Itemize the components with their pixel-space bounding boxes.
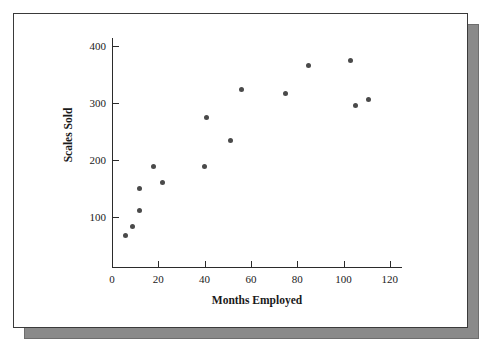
y-axis-tick bbox=[113, 103, 119, 104]
data-point bbox=[239, 87, 244, 92]
y-axis-tick bbox=[113, 46, 119, 47]
data-point bbox=[137, 186, 142, 191]
scatter-plot-figure: 100200300400 020406080100120 Months Empl… bbox=[0, 0, 486, 346]
data-point bbox=[202, 164, 207, 169]
x-axis-tick-label: 40 bbox=[199, 273, 210, 285]
y-axis-line bbox=[112, 38, 113, 267]
data-point bbox=[204, 115, 209, 120]
data-point bbox=[348, 58, 353, 63]
y-axis-tick bbox=[113, 160, 119, 161]
data-point bbox=[137, 208, 142, 213]
y-axis-tick-label: 400 bbox=[68, 40, 106, 52]
data-point bbox=[130, 224, 135, 229]
x-axis-tick-label: 100 bbox=[335, 273, 352, 285]
data-point bbox=[160, 180, 165, 185]
x-axis-tick-label: 80 bbox=[292, 273, 303, 285]
plot-canvas: 100200300400 020406080100120 Months Empl… bbox=[0, 0, 486, 346]
y-axis-tick-label: 100 bbox=[68, 211, 106, 223]
y-axis-tick bbox=[113, 217, 119, 218]
data-point bbox=[151, 164, 156, 169]
x-axis-tick bbox=[112, 261, 113, 267]
x-axis-tick-label: 20 bbox=[153, 273, 164, 285]
x-axis-tick bbox=[344, 261, 345, 267]
x-axis-tick bbox=[205, 261, 206, 267]
x-axis-tick bbox=[251, 261, 252, 267]
x-axis-tick bbox=[297, 261, 298, 267]
data-point bbox=[228, 138, 233, 143]
x-axis-tick-label: 0 bbox=[109, 273, 115, 285]
x-axis-tick bbox=[158, 261, 159, 267]
x-axis-tick bbox=[390, 261, 391, 267]
data-point bbox=[123, 233, 128, 238]
x-axis-tick-label: 60 bbox=[245, 273, 256, 285]
x-axis-line bbox=[112, 267, 402, 268]
data-point bbox=[353, 103, 358, 108]
data-point bbox=[366, 97, 371, 102]
x-axis-tick-label: 120 bbox=[382, 273, 399, 285]
data-point bbox=[283, 91, 288, 96]
y-axis-title: Scales Sold bbox=[62, 107, 74, 162]
x-axis-title: Months Employed bbox=[212, 294, 302, 306]
data-point bbox=[306, 63, 311, 68]
